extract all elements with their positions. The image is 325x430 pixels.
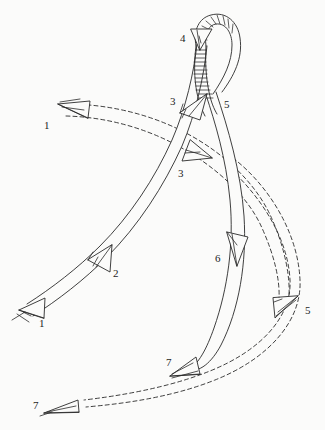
arrowhead-7-middle [170, 357, 200, 378]
arrowhead-1-bottomleft-tail [17, 314, 29, 322]
band-a-edge-right [33, 46, 207, 316]
diagram-svg [0, 0, 325, 430]
label-3-upper: 3 [170, 96, 176, 107]
arrowhead-5-lower [273, 296, 298, 318]
arrowhead-7-middle-shape [170, 357, 200, 376]
arrowhead-1-left-shape [58, 101, 90, 118]
label-4: 4 [180, 33, 186, 44]
arrowhead-1-left-upper-fin [60, 99, 80, 102]
label-7-bottomleft: 7 [33, 400, 39, 411]
arrowhead-1-left [58, 99, 90, 118]
label-6: 6 [215, 253, 221, 264]
arrowhead-7-bottomleft [44, 400, 79, 413]
band-c-interior [186, 92, 245, 370]
arrowhead-4-shape [191, 29, 212, 50]
label-3-lower: 3 [178, 168, 184, 179]
arrowhead-4 [191, 29, 212, 50]
arrowhead-3-lower [182, 140, 212, 161]
label-7-middle: 7 [166, 357, 172, 368]
label-1-left: 1 [44, 120, 50, 131]
figure-canvas: 1 1 2 3 3 4 5 5 6 7 7 [0, 0, 325, 430]
label-2: 2 [113, 268, 119, 279]
band-c-solid-loop-to-arrow7 [186, 92, 245, 370]
label-1-bottomleft: 1 [39, 318, 45, 329]
band-a-edge-left [27, 44, 197, 304]
leader-stroke-bottomleft-1 [12, 312, 25, 320]
label-5-lower: 5 [305, 305, 311, 316]
label-5-upper: 5 [224, 99, 230, 110]
